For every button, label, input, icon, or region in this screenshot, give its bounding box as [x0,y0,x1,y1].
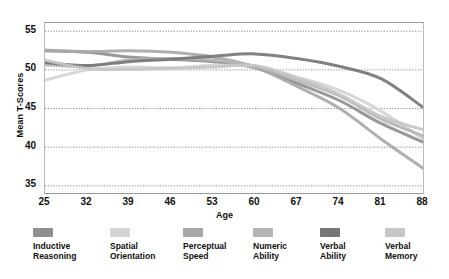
legend-label-0-line1: Inductive [33,241,101,251]
legend-label-0-line2: Reasoning [33,251,101,261]
y-tick-50: 50 [14,62,36,73]
legend-label-1-line1: Spatial [110,241,178,251]
y-tick-40: 40 [14,140,36,151]
chart-figure: Mean T-Scores 3540455055 253239465360677… [0,0,449,279]
legend-item-1: SpatialOrientation [110,228,178,261]
legend-label-2-line1: Perceptual [183,241,251,251]
x-tick-67: 67 [281,196,311,207]
legend-swatch-0 [33,228,53,237]
x-tick-39: 39 [113,196,143,207]
x-tick-81: 81 [365,196,395,207]
x-tick-74: 74 [323,196,353,207]
x-tick-88: 88 [407,196,437,207]
legend-swatch-4 [320,228,340,237]
legend-item-5: VerbalMemory [385,228,449,261]
legend-item-2: PerceptualSpeed [183,228,251,261]
legend-label-3-line1: Numeric [253,241,321,251]
x-tick-25: 25 [29,196,59,207]
x-tick-46: 46 [155,196,185,207]
legend-item-0: InductiveReasoning [33,228,101,261]
legend-swatch-2 [183,228,203,237]
chart-legend: InductiveReasoningSpatialOrientationPerc… [0,228,449,279]
x-tick-53: 53 [197,196,227,207]
x-axis-title: Age [0,210,449,220]
legend-label-4-line1: Verbal [320,241,388,251]
legend-swatch-1 [110,228,130,237]
legend-label-5-line1: Verbal [385,241,449,251]
plot-area [44,22,424,194]
series-lines [45,23,423,193]
legend-label-4-line2: Ability [320,251,388,261]
legend-item-3: NumericAbility [253,228,321,261]
x-tick-60: 60 [239,196,269,207]
legend-swatch-5 [385,228,405,237]
legend-label-1-line2: Orientation [110,251,178,261]
legend-label-3-line2: Ability [253,251,321,261]
x-tick-32: 32 [71,196,101,207]
legend-label-2-line2: Speed [183,251,251,261]
series-line-5 [45,60,423,130]
legend-item-4: VerbalAbility [320,228,388,261]
y-tick-35: 35 [14,178,36,189]
y-tick-45: 45 [14,101,36,112]
legend-label-5-line2: Memory [385,251,449,261]
legend-swatch-3 [253,228,273,237]
y-tick-55: 55 [14,24,36,35]
